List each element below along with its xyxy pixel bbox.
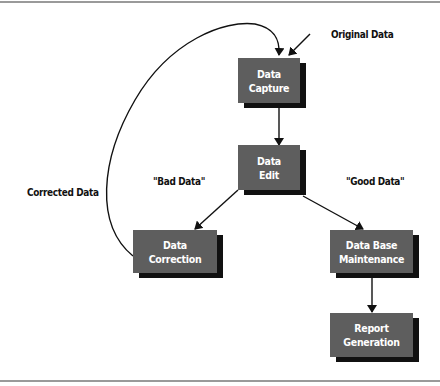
label-good-data: "Good Data" <box>346 175 404 187</box>
node-data-capture[interactable]: Data Capture <box>238 58 300 103</box>
node-data-capture-line1: Data <box>257 67 281 81</box>
node-data-correction-line2: Correction <box>149 252 202 266</box>
label-original-data: Original Data <box>331 28 393 40</box>
node-data-edit[interactable]: Data Edit <box>238 145 300 190</box>
arrow-original-to-capture <box>289 34 310 55</box>
arrow-edit-to-correction <box>195 190 238 229</box>
node-data-edit-line1: Data <box>257 154 281 168</box>
node-report-generation-line1: Report <box>354 321 388 335</box>
node-data-base-maintenance-line1: Data Base <box>346 238 397 252</box>
node-report-generation-line2: Generation <box>343 335 399 349</box>
node-data-edit-line2: Edit <box>259 168 279 182</box>
node-data-correction[interactable]: Data Correction <box>133 230 217 273</box>
node-data-capture-line2: Capture <box>249 81 289 95</box>
node-data-correction-line1: Data <box>163 238 187 252</box>
label-bad-data: "Bad Data" <box>153 175 205 187</box>
node-report-generation[interactable]: Report Generation <box>330 313 413 357</box>
node-data-base-maintenance-line2: Maintenance <box>339 252 404 266</box>
arrow-edit-to-maintenance <box>303 196 363 229</box>
label-corrected-data: Corrected Data <box>27 186 99 198</box>
node-data-base-maintenance[interactable]: Data Base Maintenance <box>330 230 413 273</box>
